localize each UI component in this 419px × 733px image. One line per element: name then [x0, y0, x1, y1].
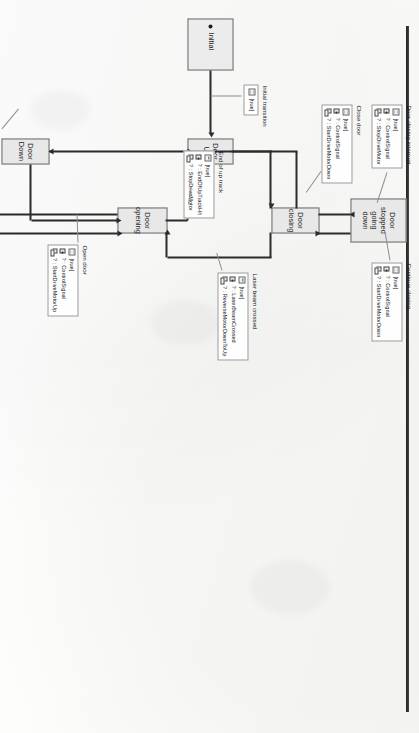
effect-icon [221, 276, 227, 283]
guard-icon [204, 154, 211, 161]
edge-door-closing-to-door-down-v [49, 150, 297, 152]
trigger-door-closing-interrupt: ? : ControlSignal [382, 117, 390, 158]
note-door-closing-interrupt[interactable]: Door closing interrupt [true] ? : Contro… [371, 104, 413, 168]
guard-icon [248, 88, 255, 95]
guard-door-closing-interrupt: [true] [391, 118, 399, 131]
note-title-initial-transition: Initial transition [260, 84, 269, 126]
arrowhead-door-down-to-door-opening [116, 217, 121, 223]
trigger-icon [334, 108, 340, 114]
guard-icon [342, 108, 349, 115]
edge-continue-closing [316, 232, 350, 234]
state-door-down[interactable]: Door Down [1, 138, 49, 164]
leader-end-of-down-track [1, 108, 18, 128]
edge-door-up-to-door-closing-h [269, 150, 271, 208]
arrowhead-closing-to-stopped-down [349, 211, 354, 217]
arrowhead-continue-closing [315, 230, 320, 236]
note-body-open-door: [true] ? : ControlSignal ? : StartDriveM… [47, 244, 79, 316]
note-title-open-door: Open door [80, 244, 89, 316]
trigger-icon [230, 276, 236, 282]
state-door-stopped-going-down[interactable]: Door stopped going down [350, 198, 406, 242]
edge-laser-beam-crossed [167, 256, 271, 258]
note-body-end-of-up-track: [true] ? : EndOfUpTrackHit ? : StopDrive… [183, 150, 215, 218]
note-body-close-door: [true] ? : ControlSignal ? : StartDriveM… [321, 104, 353, 183]
trigger-icon [60, 248, 66, 254]
effect-icon [325, 108, 331, 115]
arrowhead-laser-beam-crossed [164, 229, 170, 234]
note-body-door-closing-interrupt: [true] ? : ControlSignal ? : StopDriveMo… [371, 104, 403, 168]
trigger-continue-closing: ? : ControlSignal [382, 275, 390, 316]
note-body-laser-beam-crossed: [true] ? : LaserBeamCrossed ? : ReverseM… [217, 272, 249, 360]
arrowhead-continue-opening [117, 230, 122, 236]
guard-end-of-up-track: [true] [203, 164, 211, 177]
note-title-close-door: Close door [354, 104, 363, 183]
arrowhead-initial-to-door-up [208, 132, 214, 137]
arrowhead-door-closing-to-door-down [48, 148, 53, 154]
note-close-door[interactable]: Close door [true] ? : ControlSignal ? : … [321, 104, 363, 183]
effect-door-closing-interrupt: ? : StopDriveMotor [374, 118, 382, 165]
effect-laser-beam-crossed: ? : ReverseMotorDownToUp [220, 286, 228, 356]
leader-laser-beam-crossed [216, 253, 222, 270]
state-door-opening[interactable]: Door opening [117, 207, 167, 233]
state-label-door-stopped-down-line2: going down [360, 201, 379, 239]
effect-icon [187, 154, 193, 161]
guard-icon [68, 248, 75, 255]
state-machine-diagram: Initial Door Up Door opening Door stoppe… [0, 0, 419, 733]
state-label-door-down: Door Down [16, 141, 35, 161]
edge-door-down-to-door-opening [31, 219, 117, 221]
trigger-close-door: ? : ControlSignal [332, 117, 340, 158]
leader-open-door [76, 214, 78, 242]
guard-icon [238, 276, 245, 283]
effect-icon [375, 266, 381, 273]
note-title-continue-closing: Continue closing [404, 262, 413, 341]
note-open-door[interactable]: Open door [true] ? : ControlSignal ? : S… [47, 244, 89, 316]
note-body-continue-closing: [true] ? : ControlSignal ? : StartDriveM… [371, 262, 403, 341]
initial-pseudostate-icon [208, 24, 212, 28]
edge-laser-beam-crossed-bottom [165, 232, 167, 257]
trigger-open-door: ? : ControlSignal [58, 257, 66, 298]
effect-icon [51, 248, 57, 255]
note-initial-transition[interactable]: Initial transition [true] [243, 84, 269, 126]
guard-icon [392, 108, 399, 115]
edge-door-closing-to-door-down [295, 151, 297, 208]
edge-door-down-to-door-opening-h [29, 164, 31, 220]
state-label-initial: Initial [205, 32, 214, 50]
guard-initial-transition: [true] [247, 98, 255, 111]
trigger-icon [384, 108, 390, 114]
note-continue-closing[interactable]: Continue closing [true] ? : ControlSigna… [371, 262, 413, 341]
edge-initial-to-door-up [209, 70, 211, 133]
note-title-laser-beam-crossed: Laser beam crossed [250, 272, 259, 360]
edge-laser-beam-crossed-top [269, 232, 271, 257]
note-title-door-closing-interrupt: Door closing interrupt [404, 104, 413, 168]
guard-continue-closing: [true] [391, 276, 399, 289]
trigger-icon [384, 266, 390, 272]
state-initial[interactable]: Initial [187, 18, 233, 70]
note-laser-beam-crossed[interactable]: Laser beam crossed [true] ? : LaserBeamC… [217, 272, 259, 360]
leader-initial-transition [211, 95, 241, 96]
arrowhead-door-up-to-door-closing [268, 203, 274, 208]
note-body-initial-transition: [true] [243, 84, 258, 115]
guard-close-door: [true] [341, 118, 349, 131]
guard-open-door: [true] [67, 258, 75, 271]
state-door-closing[interactable]: Door closing [271, 207, 319, 233]
trigger-end-of-up-track: ? : EndOfUpTrackHit [194, 163, 202, 214]
state-label-door-closing: Door closing [286, 208, 305, 232]
trigger-icon [196, 154, 202, 160]
edge-continue-opening [0, 232, 119, 234]
effect-open-door: ? : StartDriveMotorUp [50, 258, 58, 312]
rotated-diagram-canvas: Initial Door Up Door opening Door stoppe… [0, 0, 419, 733]
leader-close-door [306, 171, 321, 193]
guard-icon [392, 266, 399, 273]
note-title-end-of-up-track: End of up track [216, 150, 225, 218]
trigger-laser-beam-crossed: ? : LaserBeamCrossed [228, 285, 236, 342]
effect-continue-closing: ? : StartDriveMotorDown [374, 276, 382, 337]
note-end-of-up-track[interactable]: End of up track [true] ? : EndOfUpTrackH… [183, 150, 225, 218]
effect-close-door: ? : StartDriveMotorDown [324, 118, 332, 179]
effect-icon [375, 108, 381, 115]
state-label-door-stopped-down-line1: Door stopped [378, 201, 397, 239]
state-label-door-opening: Door opening [133, 207, 152, 234]
edge-door-closing-to-stopped-down [318, 213, 350, 215]
edge-door-opening-to-stopped-up [0, 213, 117, 215]
guard-laser-beam-crossed: [true] [237, 286, 245, 299]
edge-door-opening-to-door-up [165, 219, 187, 221]
